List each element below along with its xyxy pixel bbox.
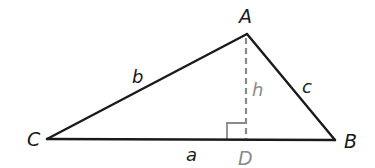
side-label-a: a [186, 144, 197, 165]
vertex-label-d: D [238, 147, 253, 168]
vertex-label-a: A [237, 5, 252, 27]
side-a [47, 139, 335, 140]
vertex-label-b: B [344, 130, 357, 152]
side-b [47, 34, 247, 139]
right-angle-marker [227, 123, 246, 140]
triangle-diagram: A B C D a b c h [0, 0, 375, 168]
side-label-b: b [132, 66, 143, 87]
side-label-c: c [302, 76, 312, 97]
vertex-label-c: C [27, 128, 41, 150]
altitude-label-h: h [252, 79, 263, 100]
